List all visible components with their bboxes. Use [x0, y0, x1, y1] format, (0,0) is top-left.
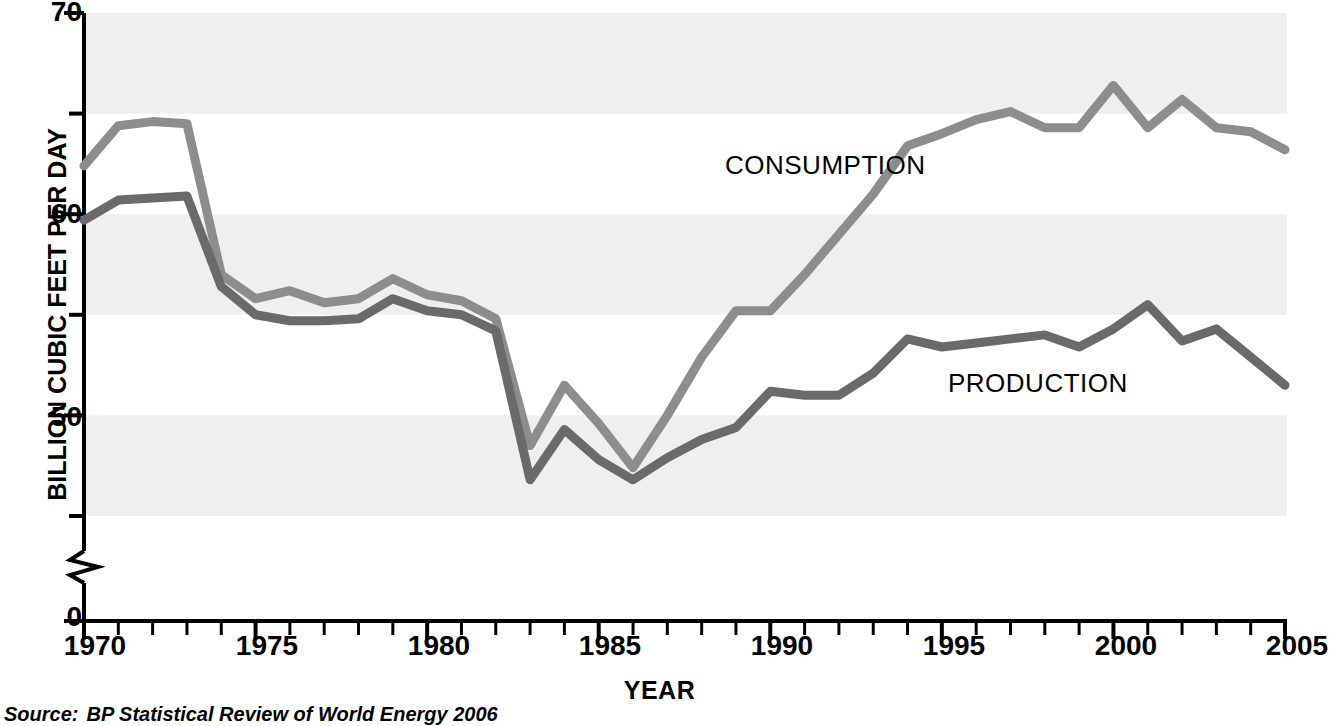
y-axis-title: BILLION CUBIC FEET PER DAY — [43, 15, 72, 615]
x-tick-label-2000: 2000 — [1066, 632, 1186, 660]
x-tick-label-1985: 1985 — [550, 632, 670, 660]
y-tick-label-50: 50 — [12, 403, 82, 431]
axis-break-zigzag — [70, 551, 98, 583]
band-2 — [84, 415, 1287, 516]
y-tick-label-0: 0 — [12, 603, 82, 631]
x-tick-label-1970: 1970 — [35, 632, 155, 660]
y-axis-break-icon — [70, 551, 98, 583]
x-tick-label-1990: 1990 — [722, 632, 842, 660]
series-label-consumption: CONSUMPTION — [725, 150, 926, 181]
x-tick-label-1975: 1975 — [207, 632, 327, 660]
x-axis-title: YEAR — [0, 676, 1319, 705]
x-tick-label-2005: 2005 — [1237, 632, 1332, 660]
source-note-text: BP Statistical Review of World Energy 20… — [86, 703, 497, 725]
series-label-production: PRODUCTION — [948, 368, 1128, 399]
y-tick-label-60: 60 — [12, 200, 82, 228]
x-tick-label-1980: 1980 — [379, 632, 499, 660]
x-tick-label-1995: 1995 — [894, 632, 1014, 660]
y-tick-label-70: 70 — [12, 0, 82, 26]
source-note: Source:BP Statistical Review of World En… — [4, 703, 498, 726]
source-note-lead: Source: — [4, 703, 78, 725]
